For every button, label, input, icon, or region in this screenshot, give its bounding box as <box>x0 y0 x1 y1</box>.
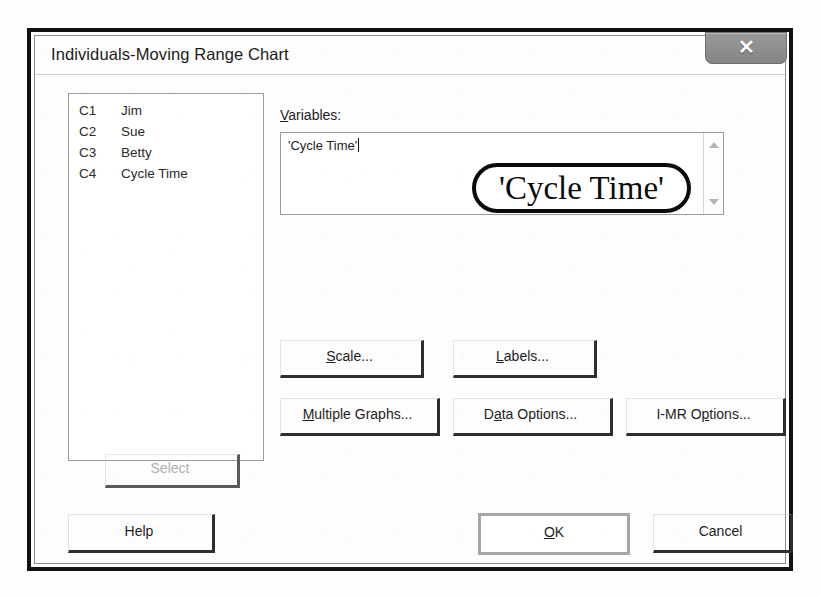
data-options-prefix: D <box>484 406 494 422</box>
variables-label: Variables: <box>280 107 341 123</box>
data-options-text: ta Options... <box>502 406 577 422</box>
variable-column: C3 <box>69 142 121 163</box>
select-button[interactable]: Select <box>105 454 240 488</box>
title-bar: Individuals-Moving Range Chart ✕ <box>35 36 785 75</box>
variable-column: C4 <box>69 163 121 184</box>
list-item[interactable]: C3Betty <box>69 142 263 163</box>
ok-button-label: OK <box>481 524 627 540</box>
screenshot-root: Individuals-Moving Range Chart ✕ C1Jim C… <box>0 0 821 597</box>
variable-name: Cycle Time <box>121 163 188 184</box>
variable-list-box[interactable]: C1Jim C2Sue C3Betty C4Cycle Time <box>68 93 264 461</box>
scale-button-label: Scale... <box>281 348 418 364</box>
labels-button-label: Labels... <box>454 348 591 364</box>
annotation-callout: 'Cycle Time' <box>472 163 691 213</box>
help-button-label: Help <box>69 523 209 539</box>
variable-name: Sue <box>121 121 145 142</box>
variables-input-text: 'Cycle Time' <box>288 138 357 153</box>
scale-text: cale... <box>335 348 372 364</box>
variable-name: Betty <box>121 142 152 163</box>
variables-label-text: ariables: <box>288 107 341 123</box>
list-item[interactable]: C1Jim <box>69 100 263 121</box>
multiple-graphs-text: ultiple Graphs... <box>314 406 412 422</box>
scale-button[interactable]: Scale... <box>280 340 424 378</box>
variable-name: Jim <box>121 100 142 121</box>
variables-input-value: 'Cycle Time' <box>288 138 359 153</box>
data-options-accelerator: a <box>494 406 502 422</box>
multiple-graphs-accelerator: M <box>303 406 315 422</box>
cancel-button[interactable]: Cancel <box>653 514 793 553</box>
labels-button[interactable]: Labels... <box>453 340 597 378</box>
ok-button[interactable]: OK <box>478 513 630 555</box>
cancel-button-label: Cancel <box>654 523 787 539</box>
imr-options-button[interactable]: I-MR Options... <box>626 398 786 436</box>
variables-scrollbar[interactable] <box>703 133 723 214</box>
dialog-window: Individuals-Moving Range Chart ✕ C1Jim C… <box>27 28 793 571</box>
window-title: Individuals-Moving Range Chart <box>51 45 289 64</box>
labels-accelerator: L <box>496 348 504 364</box>
imr-options-prefix: I-MR O <box>656 406 701 422</box>
ok-text: K <box>555 524 564 540</box>
data-options-button[interactable]: Data Options... <box>453 398 613 436</box>
data-options-button-label: Data Options... <box>454 406 607 422</box>
close-icon: ✕ <box>706 35 786 59</box>
variable-column: C1 <box>69 100 121 121</box>
close-button[interactable]: ✕ <box>705 32 787 64</box>
text-caret <box>358 138 359 152</box>
annotation-text: 'Cycle Time' <box>476 170 687 207</box>
multiple-graphs-button-label: Multiple Graphs... <box>281 406 434 422</box>
list-item[interactable]: C2Sue <box>69 121 263 142</box>
ok-accelerator: O <box>544 524 555 540</box>
multiple-graphs-button[interactable]: Multiple Graphs... <box>280 398 440 436</box>
labels-text: abels... <box>504 348 549 364</box>
variable-column: C2 <box>69 121 121 142</box>
imr-options-text: tions... <box>709 406 750 422</box>
select-button-label: Select <box>106 460 234 476</box>
imr-options-button-label: I-MR Options... <box>627 406 780 422</box>
triangle-down-icon[interactable] <box>709 199 719 205</box>
list-item[interactable]: C4Cycle Time <box>69 163 263 184</box>
dialog-inner-frame: Individuals-Moving Range Chart ✕ C1Jim C… <box>34 35 786 564</box>
triangle-up-icon[interactable] <box>709 142 719 148</box>
help-button[interactable]: Help <box>68 514 215 553</box>
